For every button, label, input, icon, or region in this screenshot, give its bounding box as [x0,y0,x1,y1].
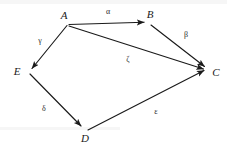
graph-edges-canvas [0,0,227,155]
node-label-b: B [147,9,154,20]
node-label-a: A [61,10,68,21]
edge-gamma-line [32,26,67,69]
node-label-e: E [14,66,21,77]
node-label-d: D [81,133,89,144]
edge-label-gamma: γ [38,37,42,45]
edge-label-delta: δ [42,105,46,113]
edge-label-alpha: α [106,8,110,16]
edge-alpha-line [69,22,144,24]
graph-figure: A B C D E α β γ δ ε ζ [0,0,227,155]
node-label-c: C [212,67,219,78]
edge-label-beta: β [184,31,188,39]
edge-label-zeta: ζ [126,56,129,64]
edge-delta-line [30,74,81,126]
edge-epsilon-line [88,71,204,131]
edge-label-epsilon: ε [154,108,157,116]
